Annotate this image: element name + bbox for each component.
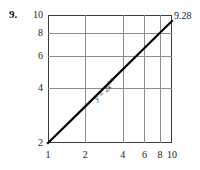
y-tick-label-8: 8 [22, 28, 43, 38]
figure-container: 9. y = 2x2/3 1246810 246810 9.28 [0, 0, 200, 170]
x-tick-label-8: 8 [157, 150, 162, 160]
x-tick-label-6: 6 [142, 150, 147, 160]
y-tick-label-10: 10 [22, 10, 43, 20]
endpoint-value-annotation: 9.28 [174, 11, 192, 21]
x-tick-label-1: 1 [46, 150, 51, 160]
x-tick-label-2: 2 [83, 150, 88, 160]
y-tick-label-4: 4 [22, 83, 43, 93]
problem-number-label: 9. [9, 9, 17, 20]
plot-area: y = 2x2/3 [48, 15, 172, 143]
y-tick-label-2: 2 [22, 138, 43, 148]
x-tick-label-10: 10 [167, 150, 177, 160]
x-tick-label-4: 4 [120, 150, 125, 160]
y-tick-label-6: 6 [22, 51, 43, 61]
